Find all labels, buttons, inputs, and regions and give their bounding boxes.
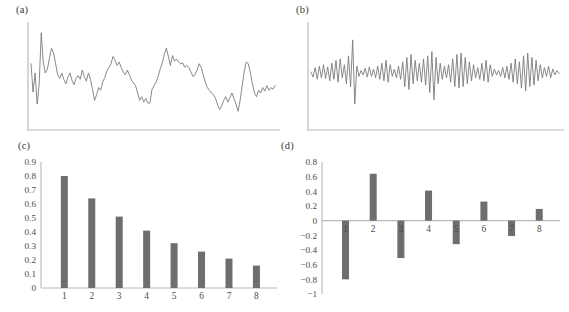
y-tick-label: 0.7 [25,185,37,195]
y-tick-label: 0.9 [25,157,37,167]
x-tick-label: 6 [482,224,487,234]
bar [253,266,260,288]
y-tick-label: 0.8 [306,157,318,167]
x-tick-label: 3 [117,291,122,301]
bar [88,198,95,288]
panel-b-plot [284,0,569,140]
y-tick-label: −0.6 [300,260,317,270]
bar [536,209,543,221]
y-tick-label: −1 [307,289,317,299]
bar [116,217,123,288]
x-tick-label: 4 [426,224,431,234]
x-tick-label: 8 [254,291,259,301]
bar [171,243,178,288]
bar [370,174,377,221]
panel-d: (d) 0.80.60.40.20−0.2−0.4−0.6−0.8−112345… [277,140,569,312]
y-tick-label: 0.2 [25,255,37,265]
y-tick-label: 0.6 [25,199,37,209]
panel-c: (c) 0.90.80.70.60.50.40.30.20.1012345678 [0,140,285,312]
x-tick-label: 3 [399,224,404,234]
panel-a-label: (a) [16,4,28,15]
panel-c-chart: 0.90.80.70.60.50.40.30.20.1012345678 [0,140,285,312]
x-tick-label: 4 [144,291,149,301]
y-tick-label: 0.4 [306,187,318,197]
y-tick-label: −0.8 [300,275,317,285]
bar [480,202,487,221]
y-tick-label: 0.5 [25,213,37,223]
x-tick-label: 5 [454,224,459,234]
x-tick-label: 6 [199,291,204,301]
x-tick-label: 5 [172,291,177,301]
x-tick-label: 1 [343,224,348,234]
panel-b-label: (b) [296,4,309,15]
y-tick-label: −0.4 [300,245,317,255]
panel-b: (b) [284,0,569,140]
x-tick-label: 7 [227,291,232,301]
panel-c-label: (c) [18,140,30,151]
y-tick-label: 0.2 [306,201,318,211]
y-tick-label: 0.1 [25,269,37,279]
y-tick-label: 0 [31,283,36,293]
y-tick-label: 0.4 [25,227,37,237]
y-tick-label: −0.2 [300,231,317,241]
x-tick-label: 2 [89,291,94,301]
figure-container: (a) (b) (c) 0.90.80.70.60.50.40.30.20.10… [0,0,569,312]
x-tick-label: 2 [371,224,376,234]
x-tick-label: 1 [62,291,67,301]
panel-d-label: (d) [281,140,294,151]
x-tick-label: 7 [509,224,514,234]
y-tick-label: 0.3 [25,241,37,251]
panel-a: (a) [0,0,285,140]
bar [425,191,432,221]
bar [143,231,150,288]
panel-d-chart: 0.80.60.40.20−0.2−0.4−0.6−0.8−112345678 [277,140,569,312]
y-tick-label: 0.6 [306,172,318,182]
x-tick-label: 8 [537,224,542,234]
bar [198,252,205,288]
y-tick-label: 0 [312,216,317,226]
bar [225,259,232,288]
panel-a-plot [0,0,285,140]
y-tick-label: 0.8 [25,171,37,181]
bar [61,176,68,288]
